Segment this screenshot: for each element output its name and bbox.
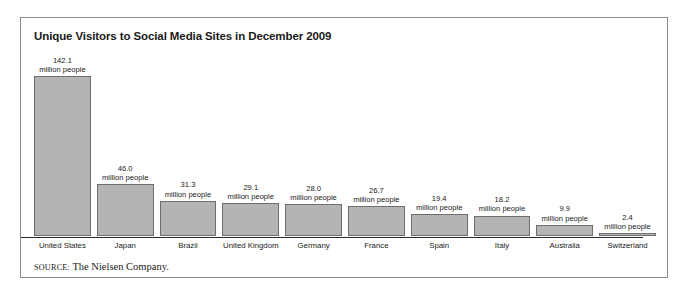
bar-group: 31.3million people — [160, 54, 217, 236]
bar-value-number: 31.3 — [165, 180, 211, 189]
bar-rect — [348, 206, 405, 236]
bar-value-unit: million people — [604, 222, 650, 231]
bar-rect — [222, 203, 279, 236]
bars-row: 142.1million people46.0million people31.… — [34, 54, 656, 236]
bar-rect — [411, 214, 468, 236]
bar-value-label: 18.2million people — [479, 195, 525, 213]
bar-rect — [34, 76, 91, 236]
bar-rect — [160, 201, 217, 236]
source-note: SOURCE: The Nielsen Company. — [34, 261, 169, 272]
x-axis-tick-label: Japan — [97, 241, 154, 250]
bar-value-number: 46.0 — [102, 164, 148, 173]
bar-rect — [536, 225, 593, 236]
bar-value-unit: million people — [290, 193, 336, 202]
bar-value-number: 26.7 — [353, 186, 399, 195]
x-axis-tick-label: United Kingdom — [222, 241, 279, 250]
bar-value-number: 18.2 — [479, 195, 525, 204]
bar-value-label: 26.7million people — [353, 186, 399, 204]
bar-value-number: 2.4 — [604, 213, 650, 222]
x-axis-tick-label: Italy — [474, 241, 531, 250]
bar-group: 29.1million people — [222, 54, 279, 236]
bar-group: 46.0million people — [97, 54, 154, 236]
x-axis-tick-label: Brazil — [160, 241, 217, 250]
bar-value-unit: million people — [39, 65, 85, 74]
bar-group: 26.7million people — [348, 54, 405, 236]
bar-rect — [97, 184, 154, 236]
bar-group: 2.4million people — [599, 54, 656, 236]
bar-value-number: 142.1 — [39, 56, 85, 65]
bar-value-unit: million people — [102, 173, 148, 182]
x-axis-tick-label: Switzerland — [599, 241, 656, 250]
bar-value-label: 46.0million people — [102, 164, 148, 182]
bar-rect — [599, 233, 656, 236]
bar-value-label: 9.9million people — [542, 204, 588, 222]
bar-group: 19.4million people — [411, 54, 468, 236]
figure-frame: Unique Visitors to Social Media Sites in… — [20, 17, 668, 278]
bar-group: 9.9million people — [536, 54, 593, 236]
bar-value-unit: million people — [479, 204, 525, 213]
bar-value-number: 9.9 — [542, 204, 588, 213]
bar-value-number: 28.0 — [290, 184, 336, 193]
bar-value-number: 29.1 — [228, 183, 274, 192]
bar-value-label: 2.4million people — [604, 213, 650, 231]
source-label: SOURCE: — [34, 263, 70, 272]
bar-value-label: 19.4million people — [416, 194, 462, 212]
x-axis-tick-label: France — [348, 241, 405, 250]
x-axis-line — [21, 237, 643, 238]
x-axis-tick-label: United States — [34, 241, 91, 250]
bar-value-label: 31.3million people — [165, 180, 211, 198]
bar-value-unit: million people — [165, 190, 211, 199]
bar-value-label: 29.1million people — [228, 183, 274, 201]
plot-area: 142.1million people46.0million people31.… — [34, 54, 656, 237]
bar-group: 18.2million people — [474, 54, 531, 236]
bar-value-unit: million people — [542, 214, 588, 223]
x-axis-tick-label: Australia — [536, 241, 593, 250]
bar-value-label: 142.1million people — [39, 56, 85, 74]
bar-value-unit: million people — [228, 192, 274, 201]
x-axis-tick-label: Germany — [285, 241, 342, 250]
source-text: The Nielsen Company. — [70, 261, 169, 272]
x-axis-tick-label: Spain — [411, 241, 468, 250]
bar-value-number: 19.4 — [416, 194, 462, 203]
bar-group: 28.0million people — [285, 54, 342, 236]
bar-value-unit: million people — [416, 203, 462, 212]
bar-value-label: 28.0million people — [290, 184, 336, 202]
bar-group: 142.1million people — [34, 54, 91, 236]
bar-rect — [474, 216, 531, 236]
page-title: Unique Visitors to Social Media Sites in… — [34, 30, 331, 42]
bar-rect — [285, 204, 342, 236]
x-axis-tick-labels: United StatesJapanBrazilUnited KingdomGe… — [34, 241, 656, 250]
bar-value-unit: million people — [353, 195, 399, 204]
